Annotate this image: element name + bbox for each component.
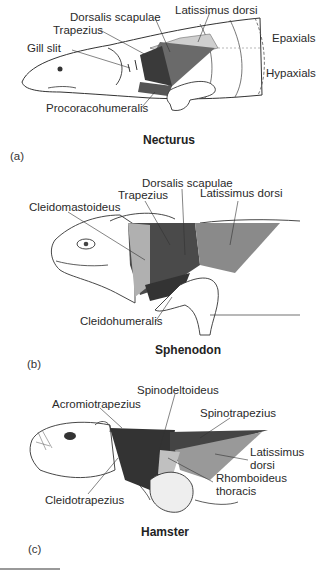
necturus-illustration: [0, 0, 327, 185]
panel-title-hamster: Hamster: [141, 525, 189, 539]
label-cleidomastoideus: Cleidomastoideus: [29, 201, 120, 214]
label-cleidohumeralis: Cleidohumeralis: [80, 315, 162, 328]
label-cleidotrapezius: Cleidotrapezius: [45, 494, 124, 507]
label-procoracohumeralis: Procoracohumeralis: [46, 102, 148, 115]
label-trapezius: Trapezius: [118, 189, 168, 202]
label-latissimus-dorsi: Latissimus dorsi: [200, 187, 282, 200]
label-latissimus-dorsi: Latissimus dorsi: [175, 4, 257, 17]
bottom-rule: [0, 568, 60, 570]
label-acromiotrapezius: Acromiotrapezius: [52, 398, 141, 411]
label-spinodeltoideus: Spinodeltoideus: [137, 384, 219, 397]
panel-title-sphenodon: Sphenodon: [155, 343, 221, 357]
label-latissimus-dorsi-line1: Latissimus: [250, 446, 304, 459]
hamster-illustration: [0, 370, 327, 572]
panel-hamster: Spinodeltoideus Acromiotrapezius Spinotr…: [0, 370, 327, 572]
panel-label-b: (b): [27, 358, 41, 370]
panel-label-c: (c): [28, 543, 41, 555]
panel-label-a: (a): [10, 150, 24, 162]
label-hypaxials: Hypaxials: [266, 67, 316, 80]
label-latissimus-dorsi-line2: dorsi: [250, 459, 275, 472]
label-gill-slit: Gill slit: [27, 42, 61, 55]
panel-necturus: Dorsalis scapulae Latissimus dorsi Trape…: [0, 0, 327, 185]
panel-sphenodon: Dorsalis scapulae Trapezius Latissimus d…: [0, 185, 327, 370]
panel-title-necturus: Necturus: [143, 133, 195, 147]
label-rhomboideus-line2: thoracis: [216, 485, 256, 498]
label-rhomboideus-line1: Rhomboideus: [216, 472, 287, 485]
label-epaxials: Epaxials: [272, 32, 315, 45]
label-dorsalis-scapulae: Dorsalis scapulae: [70, 11, 161, 24]
label-spinotrapezius: Spinotrapezius: [200, 407, 276, 420]
label-trapezius: Trapezius: [53, 24, 103, 37]
